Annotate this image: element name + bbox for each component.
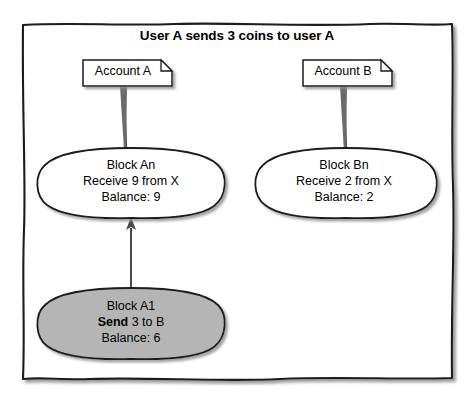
node-block-a1-line2: Send 3 to B <box>37 315 225 331</box>
node-block-a1-line1: Block A1 <box>37 299 225 315</box>
note-account-b-label: Account B <box>303 64 383 80</box>
diagram-title: User A sends 3 coins to user A <box>22 27 452 44</box>
node-block-bn-line1: Block Bn <box>253 158 435 174</box>
node-block-a1-line2-rest: 3 to B <box>128 315 164 329</box>
node-block-a1-line3: Balance: 6 <box>37 331 225 347</box>
node-block-an-line3: Balance: 9 <box>37 190 225 206</box>
node-block-bn-line2: Receive 2 from X <box>253 174 435 190</box>
node-block-bn-line3: Balance: 2 <box>253 190 435 206</box>
node-block-an-label: Block An Receive 9 from X Balance: 9 <box>37 158 225 206</box>
node-block-a1-send-keyword: Send <box>98 315 129 329</box>
node-block-an-line2: Receive 9 from X <box>37 174 225 190</box>
diagram-canvas: User A sends 3 coins to user A Account A… <box>0 0 476 405</box>
node-block-bn-label: Block Bn Receive 2 from X Balance: 2 <box>253 158 435 206</box>
node-block-a1-label: Block A1 Send 3 to B Balance: 6 <box>37 299 225 347</box>
node-block-an-line1: Block An <box>37 158 225 174</box>
note-account-a-label: Account A <box>83 64 163 80</box>
